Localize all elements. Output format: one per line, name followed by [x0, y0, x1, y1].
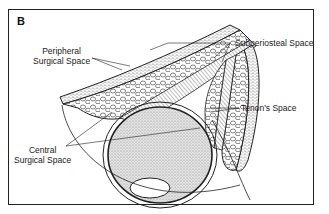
label-subperiosteal-space: Subperiosteal Space: [235, 38, 313, 48]
label-tenons-space: Tenon's Space: [241, 103, 297, 113]
label-peripheral-surgical-space: Peripheral Surgical Space: [33, 46, 90, 66]
label-line: Surgical Space: [14, 155, 71, 165]
label-line: Surgical Space: [33, 56, 90, 66]
label-line: Central: [14, 145, 71, 155]
label-line: Peripheral: [33, 46, 90, 56]
label-central-surgical-space: Central Surgical Space: [14, 145, 71, 165]
